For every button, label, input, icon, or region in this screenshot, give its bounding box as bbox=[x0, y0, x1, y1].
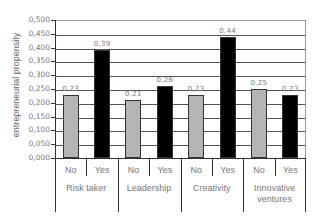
bar-no bbox=[125, 100, 141, 158]
gridline bbox=[55, 131, 305, 132]
x-category-separator bbox=[118, 158, 119, 212]
y-tick-label: 0,250 bbox=[10, 84, 50, 93]
data-label: 0,25 bbox=[244, 79, 274, 87]
x-subcategory-label: Yes bbox=[87, 165, 117, 175]
data-label: 0,44 bbox=[213, 27, 243, 35]
bar-yes bbox=[282, 95, 298, 158]
y-tick bbox=[51, 89, 56, 90]
x-subcategory-label: No bbox=[244, 165, 274, 175]
x-category-label: Leadership bbox=[118, 183, 180, 194]
y-tick bbox=[51, 20, 56, 21]
bar-no bbox=[188, 95, 204, 158]
gridline bbox=[55, 104, 305, 105]
gridline bbox=[55, 118, 305, 119]
y-tick-label: 0,150 bbox=[10, 112, 50, 121]
x-subcategory-label: No bbox=[118, 165, 148, 175]
data-label: 0,26 bbox=[150, 76, 180, 84]
bar-no bbox=[251, 89, 267, 158]
data-label: 0,39 bbox=[87, 40, 117, 48]
bar-yes bbox=[94, 50, 110, 158]
plot-area: 0,230,390,210,260,230,440,250,23 bbox=[55, 20, 306, 158]
y-tick-label: 0,300 bbox=[10, 70, 50, 79]
x-subcategory-label: No bbox=[56, 165, 86, 175]
bar-no bbox=[63, 95, 79, 158]
y-tick-label: 0,450 bbox=[10, 29, 50, 38]
data-label: 0,23 bbox=[56, 85, 86, 93]
x-subcategory-separator bbox=[86, 158, 87, 176]
gridline bbox=[55, 145, 305, 146]
y-tick bbox=[51, 75, 56, 76]
gridline bbox=[55, 35, 305, 36]
y-tick-label: 0,200 bbox=[10, 98, 50, 107]
y-tick bbox=[51, 48, 56, 49]
y-tick bbox=[51, 34, 56, 35]
x-subcategory-label: Yes bbox=[213, 165, 243, 175]
y-tick bbox=[51, 130, 56, 131]
data-label: 0,23 bbox=[181, 85, 211, 93]
x-axis-line bbox=[55, 158, 306, 159]
y-tick-label: 0,500 bbox=[10, 15, 50, 24]
bar-yes bbox=[220, 37, 236, 158]
y-tick bbox=[51, 144, 56, 145]
y-tick-label: 0,400 bbox=[10, 43, 50, 52]
x-category-separator bbox=[243, 158, 244, 212]
y-tick bbox=[51, 61, 56, 62]
gridline bbox=[55, 62, 305, 63]
x-subcategory-label: Yes bbox=[275, 165, 305, 175]
x-subcategory-separator bbox=[275, 158, 276, 176]
x-subcategory-label: Yes bbox=[150, 165, 180, 175]
gridline bbox=[55, 90, 305, 91]
x-subcategory-separator bbox=[212, 158, 213, 176]
data-label: 0,23 bbox=[275, 85, 305, 93]
x-subcategory-separator bbox=[149, 158, 150, 176]
data-label: 0,21 bbox=[118, 90, 148, 98]
y-tick bbox=[51, 117, 56, 118]
x-category-separator bbox=[305, 158, 306, 212]
y-tick bbox=[51, 103, 56, 104]
y-tick-label: 0,050 bbox=[10, 139, 50, 148]
x-category-label: Risk taker bbox=[55, 183, 117, 194]
y-tick-label: 0,000 bbox=[10, 153, 50, 162]
bar-chart: entrepreneurial propensity 0,0000,0500,1… bbox=[0, 0, 323, 220]
y-tick-label: 0,100 bbox=[10, 125, 50, 134]
y-tick-label: 0,350 bbox=[10, 56, 50, 65]
gridline bbox=[55, 49, 305, 50]
x-category-separator bbox=[181, 158, 182, 212]
bar-yes bbox=[157, 86, 173, 158]
gridline bbox=[55, 76, 305, 77]
x-category-label: Creativity bbox=[181, 183, 243, 194]
x-category-label: Innovative ventures bbox=[244, 183, 306, 205]
x-subcategory-label: No bbox=[181, 165, 211, 175]
